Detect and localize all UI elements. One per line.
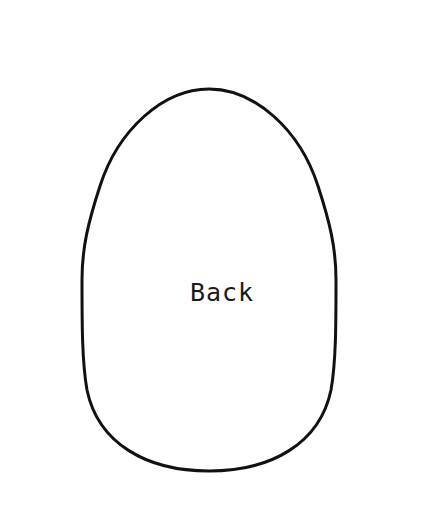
pattern-drawing (0, 0, 444, 512)
pattern-canvas: Back (0, 0, 444, 512)
pattern-label-back: Back (0, 279, 444, 307)
